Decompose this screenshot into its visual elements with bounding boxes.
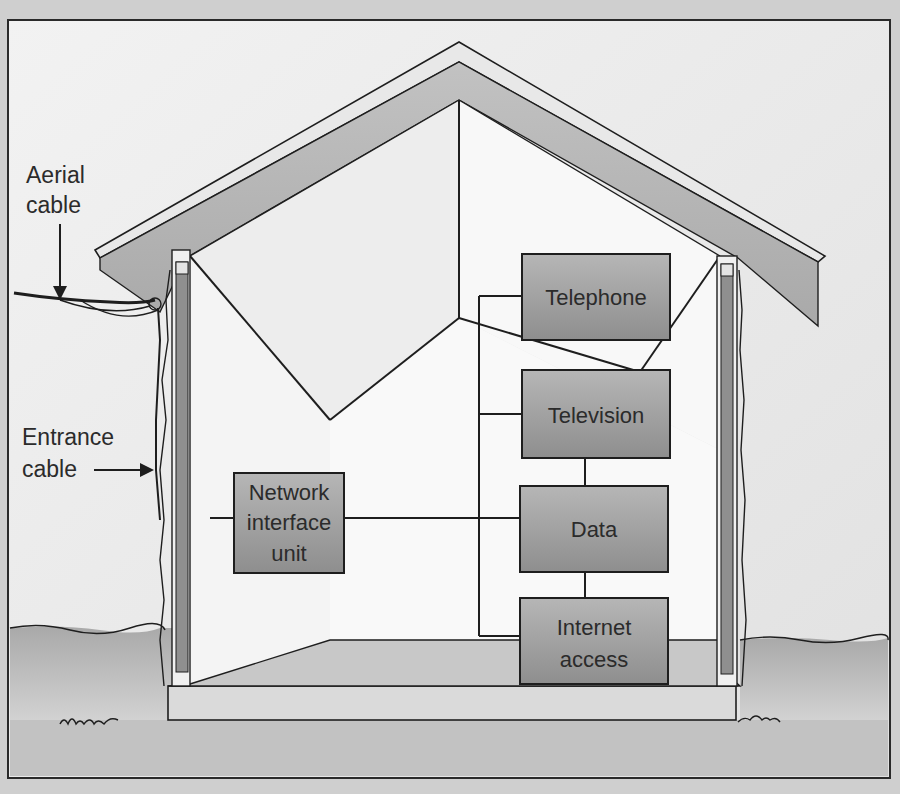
telephone-box: Telephone <box>522 254 670 340</box>
internet-access-box: Internet access <box>520 598 668 684</box>
network-interface-unit-box: Network interface unit <box>234 473 344 573</box>
svg-text:Network: Network <box>249 480 331 505</box>
diagram-canvas: Aerial cable Entrance cable Network inte… <box>0 0 900 794</box>
svg-text:Internet: Internet <box>557 615 632 640</box>
aerial-cable-label-line1: Aerial <box>26 162 85 188</box>
television-box: Television <box>522 370 670 458</box>
entrance-cable-label-line2: cable <box>22 456 77 482</box>
house-cabling-diagram: Aerial cable Entrance cable Network inte… <box>0 0 900 794</box>
data-box: Data <box>520 486 668 572</box>
aerial-cable-label-line2: cable <box>26 192 81 218</box>
svg-text:Telephone: Telephone <box>545 285 647 310</box>
svg-text:interface: interface <box>247 510 331 535</box>
foundation-slab <box>168 686 736 720</box>
svg-text:Data: Data <box>571 517 618 542</box>
svg-text:access: access <box>560 647 628 672</box>
svg-text:unit: unit <box>271 541 306 566</box>
entrance-cable-label-line1: Entrance <box>22 424 114 450</box>
svg-text:Television: Television <box>548 403 645 428</box>
